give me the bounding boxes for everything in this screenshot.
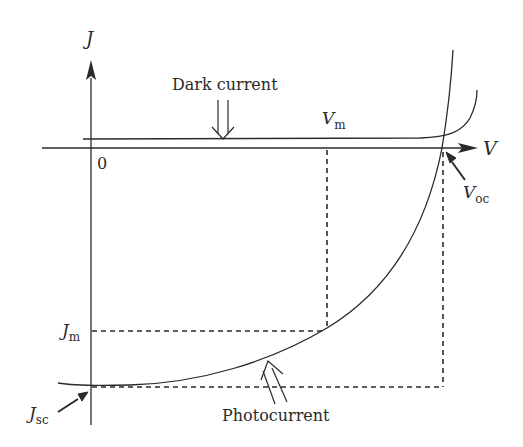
vm-label: Vm: [322, 110, 346, 127]
photocurrent-arrow-icon: [261, 361, 287, 404]
x-axis: [42, 143, 478, 153]
origin-label: 0: [97, 156, 107, 172]
dashed-guides: [92, 150, 443, 387]
voc-label: Voc: [463, 184, 489, 201]
dark-current-arrow-icon: [212, 100, 234, 139]
jsc-label: Jsc: [29, 405, 49, 422]
jsc-label-sub: sc: [36, 413, 49, 427]
jm-label: Jm: [62, 322, 80, 339]
y-axis: [86, 60, 96, 425]
voc-label-main: V: [463, 182, 475, 202]
jsc-pointer-arrow-icon: [58, 392, 88, 412]
jv-diagram: J V 0 Dark current Photocurrent Vm Voc J…: [0, 0, 523, 447]
vm-label-sub: m: [334, 118, 345, 132]
voc-label-sub: oc: [475, 192, 489, 206]
y-axis-arrow-icon: [86, 60, 96, 80]
vm-label-main: V: [322, 108, 334, 128]
dark-current-label: Dark current: [172, 77, 278, 93]
jm-label-sub: m: [69, 330, 80, 344]
dark-current-curve: [83, 90, 477, 139]
voc-pointer-arrow-icon: [446, 152, 465, 180]
jsc-label-main: J: [29, 403, 36, 423]
photocurrent-curve: [58, 50, 453, 386]
photocurrent-label: Photocurrent: [222, 408, 330, 424]
x-axis-label: V: [483, 139, 497, 158]
diagram-canvas: [0, 0, 523, 447]
jm-label-main: J: [62, 320, 69, 340]
y-axis-label: J: [86, 30, 93, 48]
